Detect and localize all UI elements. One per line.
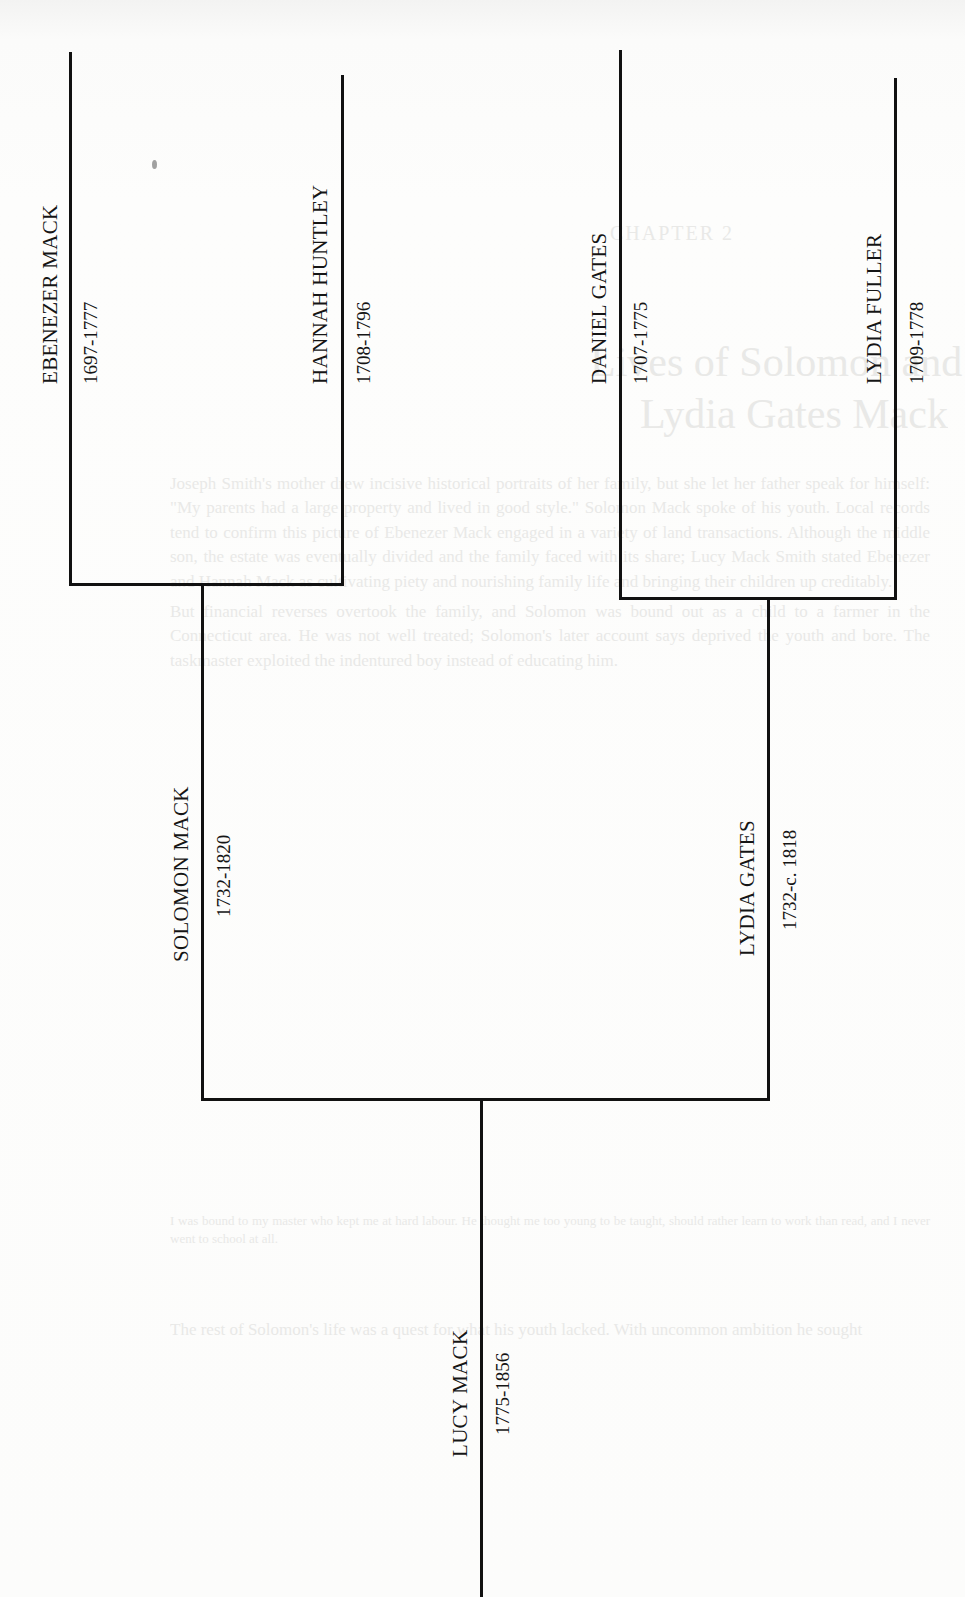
line-lydia-fuller [894,78,897,600]
ghost-paragraph: But financial reverses overtook the fami… [170,600,930,673]
person-dates-ebenezer: 1697-1777 [80,302,102,384]
bracket-gates-parents [619,597,897,600]
line-daniel [619,50,622,600]
person-dates-lucy: 1775-1856 [492,1353,514,1435]
line-ebenezer [69,52,72,586]
person-name-ebenezer: EBENEZER MACK [38,205,63,384]
ghost-footnote: I was bound to my master who kept me at … [170,1212,930,1248]
ghost-closing-text: The rest of Solomon's life was a quest f… [170,1318,930,1342]
person-name-daniel: DANIEL GATES [587,232,612,384]
person-dates-lydia-gates: 1732-c. 1818 [779,830,801,930]
person-name-lucy: LUCY MACK [448,1330,473,1457]
ghost-chapter-heading: CHAPTER 2 [610,222,734,245]
person-name-lydia-fuller: LYDIA FULLER [862,234,887,384]
line-hannah [341,75,344,586]
line-lydia-gates [767,597,770,1101]
ghost-paragraph: Joseph Smith's mother drew incisive hist… [170,472,930,594]
bracket-lucy-parents [201,1098,770,1101]
book-page: CHAPTER 2 Lives of Solomon and Lydia Gat… [0,0,965,1597]
ghost-body-text: Joseph Smith's mother drew incisive hist… [170,472,930,673]
person-dates-solomon: 1732-1820 [213,835,235,917]
line-lucy [480,1098,483,1597]
ghost-title-line-2: Lydia Gates Mack [640,390,948,438]
person-name-hannah: HANNAH HUNTLEY [308,184,333,384]
person-name-solomon: SOLOMON MACK [169,786,194,962]
bracket-mack-parents [69,583,344,586]
person-dates-daniel: 1707-1775 [630,302,652,384]
person-dates-lydia-fuller: 1709-1778 [906,302,928,384]
person-dates-hannah: 1708-1796 [353,302,375,384]
paper-speck [152,160,157,169]
person-name-lydia-gates: LYDIA GATES [735,820,760,956]
line-solomon [201,583,204,1101]
